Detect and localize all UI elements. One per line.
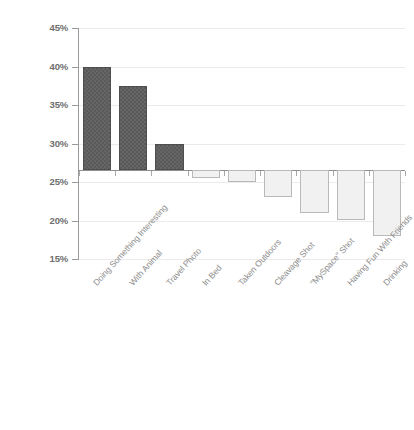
x-axis-category-label: Travel Photo [164, 246, 203, 288]
x-axis-category-label: Drinking [381, 258, 409, 288]
x-axis-category-label: In Bed [200, 263, 224, 288]
x-axis-category-label: With Animal [127, 248, 164, 288]
x-axis-category-label: Having Fun With Friends [345, 212, 414, 287]
x-axis-category-label: Doing Something Interesting [91, 202, 169, 287]
